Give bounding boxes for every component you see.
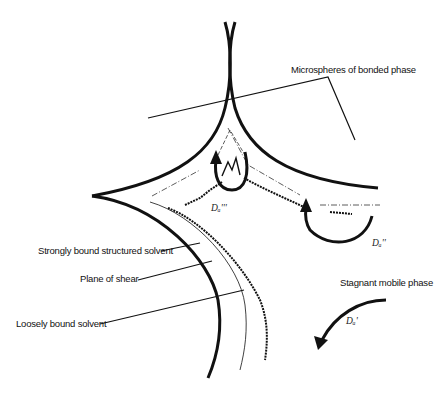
loosely-bound-label: Loosely bound solvent <box>16 318 106 329</box>
diffusion-label-prime: Dₐ' <box>346 316 358 326</box>
plane-of-shear-label: Plane of shear <box>80 273 138 284</box>
microspheres-leader <box>148 77 355 140</box>
bottom-sphere-edge <box>92 196 220 378</box>
top-right-sphere-edge <box>230 22 378 188</box>
u-arrow-head <box>210 150 222 164</box>
top-left-sphere-edge <box>92 22 230 196</box>
stagnant-label: Stagnant mobile phase <box>340 277 433 288</box>
diagram-canvas <box>0 0 441 398</box>
u-arrow <box>216 152 247 190</box>
right-arrow <box>305 208 372 242</box>
plane-of-shear-leader <box>138 261 212 280</box>
cusp-rough-peak <box>222 158 240 176</box>
loosely-bound-leader <box>100 290 244 324</box>
dash-dot-boundary <box>152 128 380 205</box>
microspheres-label: Microspheres of bonded phase <box>291 64 416 75</box>
strongly-bound-label: Strongly bound structured solvent <box>38 245 173 256</box>
stagnant-arrow-head <box>314 336 328 350</box>
diffusion-label-triple-prime: Dₐ''' <box>211 203 227 213</box>
diffusion-label-double-prime: Dₐ'' <box>372 238 386 248</box>
